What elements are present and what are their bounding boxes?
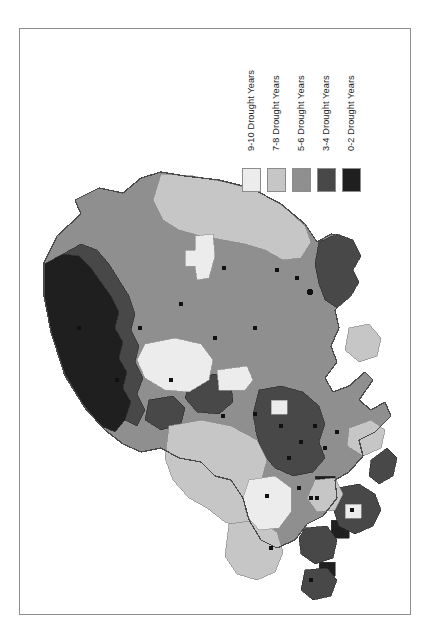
legend-label-7-8: 7-8 Drought Years xyxy=(272,75,281,151)
city-marker xyxy=(222,266,226,270)
city-marker xyxy=(269,546,273,550)
city-marker xyxy=(335,430,339,434)
city-marker xyxy=(221,414,225,418)
legend-swatch-5-6 xyxy=(292,168,311,192)
city-marker xyxy=(297,486,301,490)
city-marker xyxy=(309,578,313,582)
city-marker xyxy=(295,276,299,280)
legend-label-0-2: 0-2 Drought Years xyxy=(347,75,356,151)
legend-swatch-3-4 xyxy=(317,168,336,192)
city-marker xyxy=(315,496,319,500)
city-marker xyxy=(179,302,183,306)
city-marker xyxy=(169,378,173,382)
legend-item-3-4[interactable]: 3-4 Drought Years xyxy=(316,46,338,192)
legend-item-5-6[interactable]: 5-6 Drought Years xyxy=(291,46,313,192)
map-legend: 9-10 Drought Years 7-8 Drought Years 5-6… xyxy=(241,46,363,192)
city-marker xyxy=(287,456,291,460)
legend-swatch-0-2 xyxy=(342,168,361,192)
legend-swatch-7-8 xyxy=(267,168,286,192)
legend-item-9-10[interactable]: 9-10 Drought Years xyxy=(241,46,263,192)
figure-page: 9-10 Drought Years 7-8 Drought Years 5-6… xyxy=(0,0,430,632)
city-marker xyxy=(307,289,313,295)
city-marker xyxy=(77,326,81,330)
legend-swatch-9-10 xyxy=(242,168,261,192)
city-marker xyxy=(138,326,142,330)
city-marker xyxy=(275,268,279,272)
city-marker xyxy=(299,440,303,444)
city-marker xyxy=(265,494,269,498)
legend-item-0-2[interactable]: 0-2 Drought Years xyxy=(341,46,363,192)
city-marker xyxy=(323,446,327,450)
city-marker xyxy=(253,412,257,416)
city-marker xyxy=(115,378,119,382)
city-marker xyxy=(313,424,317,428)
city-marker xyxy=(350,508,354,512)
legend-item-7-8[interactable]: 7-8 Drought Years xyxy=(266,46,288,192)
city-marker xyxy=(213,336,217,340)
city-marker xyxy=(253,326,257,330)
city-marker xyxy=(279,424,283,428)
legend-label-5-6: 5-6 Drought Years xyxy=(297,75,306,151)
city-marker xyxy=(309,496,313,500)
legend-label-3-4: 3-4 Drought Years xyxy=(322,75,331,151)
legend-label-9-10: 9-10 Drought Years xyxy=(247,70,256,151)
